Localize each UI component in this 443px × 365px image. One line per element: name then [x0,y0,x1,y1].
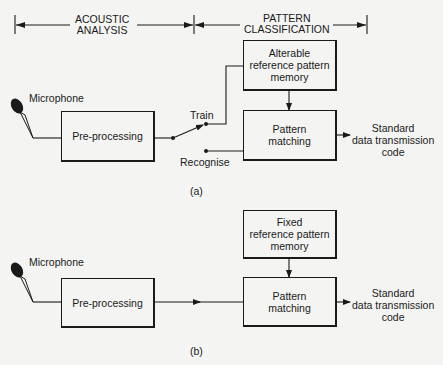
preprocessing-label-a: Pre-processing [72,130,143,142]
memory-line-2: reference pattern [250,59,330,71]
preprocessing-label-b: Pre-processing [72,297,143,309]
caption-a: (a) [190,186,203,197]
output-b-line-2: data transmission [352,299,434,311]
memory-line-3: memory [250,71,330,83]
output-line-1: Standard [352,122,434,134]
train-label: Train [190,110,214,121]
output-b-line-1: Standard [352,287,434,299]
microphone-label-a: Microphone [29,93,84,104]
pattern-matching-box-b: Pattern matching [243,277,337,327]
output-b-line-3: code [352,311,434,323]
output-label-a: Standard data transmission code [352,122,434,158]
caption-b: (b) [190,346,203,357]
memory-line-1: Alterable [250,47,330,59]
matching-b-line-1: Pattern [268,290,311,302]
pattern-classification-label: PATTERN CLASSIFICATION [241,13,333,35]
output-label-b: Standard data transmission code [352,287,434,323]
matching-line-2: matching [268,135,311,147]
fixed-memory-box: Fixed reference pattern memory [243,210,337,259]
recognise-label: Recognise [180,157,230,168]
alterable-memory-box: Alterable reference pattern memory [243,40,337,91]
output-line-3: code [352,146,434,158]
matching-b-line-2: matching [268,302,311,314]
classification-line-2: CLASSIFICATION [244,24,330,35]
microphone-label-b: Microphone [29,257,84,268]
memory-b-line-2: reference pattern [250,228,330,240]
matching-line-1: Pattern [268,123,311,135]
acoustic-line-2: ANALYSIS [75,25,129,36]
memory-b-line-3: memory [250,240,330,252]
pattern-matching-box-a: Pattern matching [243,110,337,161]
preprocessing-box-b: Pre-processing [61,278,155,328]
memory-b-line-1: Fixed [250,216,330,228]
acoustic-analysis-label: ACOUSTIC ANALYSIS [72,14,132,36]
output-line-2: data transmission [352,134,434,146]
preprocessing-box-a: Pre-processing [61,111,155,162]
